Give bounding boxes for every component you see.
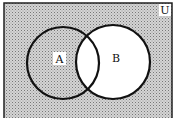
universe-label: U [160, 4, 169, 17]
set-b-label: B [112, 52, 120, 65]
venn-diagram: U A B [0, 0, 174, 118]
set-a-label: A [55, 53, 65, 66]
